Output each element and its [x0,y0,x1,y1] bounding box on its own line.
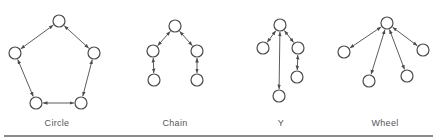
node-circle [338,46,350,58]
network-y [257,19,304,102]
edge-arrow [18,59,34,96]
node-circle [274,19,286,31]
edge-arrow [393,27,418,46]
label-chain: Chain [162,118,187,128]
node-circle [53,15,65,27]
edge-arrow [284,31,293,43]
node-circle [9,47,21,59]
edge-arrow [153,58,154,73]
edge-arrow [180,31,193,45]
label-circle: Circle [45,118,70,128]
edge-arrow [389,30,404,70]
node-circle [401,70,413,82]
node-circle [273,90,285,102]
edge-arrow [371,30,385,75]
node-circle [75,97,87,109]
bottom-divider [4,135,433,137]
network-circle [9,15,100,109]
edge-arrow [279,32,280,89]
edge-arrow [21,25,54,49]
label-y: Y [278,118,284,128]
node-circle [191,74,203,86]
node-circle [147,45,159,57]
network-chain [147,20,203,86]
edge-arrow [158,31,171,45]
node-circle [257,42,269,54]
node-circle [363,75,375,87]
edge-arrow [297,55,298,70]
node-circle [30,97,42,109]
node-circle [169,20,181,32]
edge-arrow [83,60,92,96]
network-wheel [338,17,429,87]
node-circle [148,74,160,86]
edge-arrow [64,26,89,49]
edge-arrow [267,31,276,43]
node-circle [417,44,429,56]
label-wheel: Wheel [371,118,398,128]
node-circle [292,42,304,54]
node-circle [381,17,393,29]
node-circle [191,45,203,57]
node-circle [88,47,100,59]
edge-arrow [350,27,381,48]
node-circle [291,71,303,83]
